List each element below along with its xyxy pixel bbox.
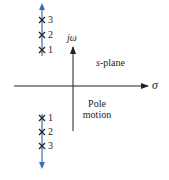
s-plane-label-suffix: -plane bbox=[100, 57, 125, 68]
diagram-canvas bbox=[0, 0, 169, 180]
s-plane-label: s-plane bbox=[96, 58, 125, 68]
lower-pole-label: 2 bbox=[48, 127, 53, 137]
arrowhead-up-icon bbox=[39, 3, 45, 10]
pole-motion-line1: Pole bbox=[80, 98, 114, 109]
jomega-axis-label: jω bbox=[67, 33, 77, 43]
arrowhead-down-icon bbox=[39, 162, 45, 169]
pole-motion-line2: motion bbox=[80, 109, 114, 120]
s-plane-diagram: 3 2 1 1 2 3 jω σ s-plane Pole motion bbox=[0, 0, 169, 180]
pole-motion-annotation: Pole motion bbox=[80, 98, 114, 120]
sigma-axis-label: σ bbox=[152, 79, 158, 91]
lower-pole-label: 1 bbox=[48, 113, 53, 123]
upper-pole-label: 1 bbox=[48, 45, 53, 55]
upper-pole-label: 2 bbox=[48, 30, 53, 40]
lower-pole-label: 3 bbox=[48, 141, 53, 151]
upper-pole-label: 3 bbox=[48, 15, 53, 25]
